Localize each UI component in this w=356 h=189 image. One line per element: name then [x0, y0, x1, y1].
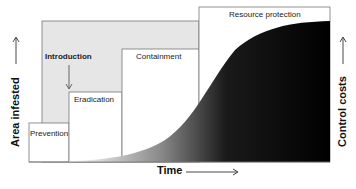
y-axis-right-label: Control costs: [336, 76, 348, 147]
containment-label: Containment: [136, 52, 181, 61]
eradication-label: Eradication: [74, 95, 114, 104]
introduction-label: Introduction: [45, 52, 92, 61]
resource-protection-label: Resource protection: [229, 10, 301, 19]
invasion-curve-diagram: [0, 0, 356, 189]
prevention-label: Prevention: [30, 129, 68, 138]
x-axis-label: Time: [157, 164, 182, 176]
y-axis-left-label: Area infested: [9, 77, 21, 147]
